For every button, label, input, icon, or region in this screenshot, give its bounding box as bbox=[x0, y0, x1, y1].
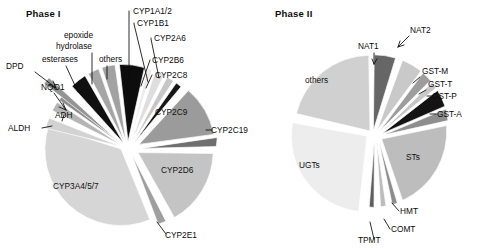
leader-cyp2e1 bbox=[157, 222, 166, 234]
slice-label-sts: STs bbox=[406, 152, 420, 162]
leader-esterases bbox=[66, 66, 78, 92]
callout-label-cyp1a12: CYP1A1/2 bbox=[133, 6, 172, 16]
phase1-wedges bbox=[44, 64, 217, 225]
phase2-panel: Phase II bbox=[275, 8, 462, 245]
callout-label-cyp2e1: CYP2E1 bbox=[165, 230, 197, 240]
callout-label-nat1: NAT1 bbox=[358, 41, 379, 51]
phase1-title: Phase I bbox=[26, 8, 61, 19]
callout-label-cyp2c8: CYP2C8 bbox=[155, 70, 188, 80]
callout-label-epoxide-line2: hydrolase bbox=[56, 41, 92, 51]
callout-label-gstm: GST-M bbox=[422, 66, 448, 76]
callout-label-gsta: GST-A bbox=[437, 109, 462, 119]
callout-label-gstp: GST-P bbox=[432, 91, 457, 101]
wedge-cyp2d6[interactable] bbox=[138, 153, 213, 218]
slice-label-others-p2: others bbox=[305, 75, 328, 85]
wedge-tpmt[interactable] bbox=[369, 141, 374, 208]
callout-label-others-p1: others bbox=[99, 54, 122, 64]
callout-label-hmt: HMT bbox=[400, 206, 418, 216]
callout-label-gstt: GST-T bbox=[428, 79, 452, 89]
figure-root: Phase I bbox=[0, 0, 481, 251]
callout-label-comt: COMT bbox=[391, 224, 415, 234]
callout-label-cyp2a6: CYP2A6 bbox=[154, 33, 186, 43]
callout-label-cyp2c19: CYP2C19 bbox=[211, 125, 248, 135]
slice-label-ugts: UGTs bbox=[299, 160, 320, 170]
drug-metabolizing-enzymes-pie-figure: Phase I bbox=[0, 0, 481, 251]
slice-label-cyp2c9: CYP2C9 bbox=[155, 107, 188, 117]
callout-label-cyp1b1: CYP1B1 bbox=[137, 18, 169, 28]
callout-label-epoxide-line1: epoxide bbox=[64, 30, 93, 40]
leader-hmt bbox=[392, 203, 399, 211]
callout-label-cyp2b6: CYP2B6 bbox=[152, 55, 184, 65]
callout-label-nat2: NAT2 bbox=[410, 25, 431, 35]
phase1-panel: Phase I bbox=[6, 6, 248, 240]
slice-label-cyp2d6: CYP2D6 bbox=[161, 165, 194, 175]
callout-label-dpd: DPD bbox=[6, 61, 24, 71]
callout-label-tpmt: TPMT bbox=[358, 235, 381, 245]
leader-comt bbox=[384, 219, 390, 229]
wedge-others-p2[interactable] bbox=[296, 55, 370, 131]
phase2-title: Phase II bbox=[275, 8, 313, 19]
slice-label-cyp3a4: CYP3A4/5/7 bbox=[53, 181, 99, 191]
callout-label-aldh: ALDH bbox=[8, 123, 30, 133]
callout-label-nqo1: NQO1 bbox=[41, 82, 65, 92]
callout-label-esterases: esterases bbox=[42, 54, 78, 64]
